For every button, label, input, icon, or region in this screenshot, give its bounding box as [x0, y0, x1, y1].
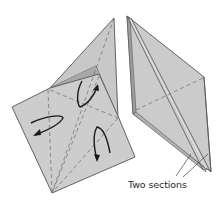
annotation-two-sections: Two sections	[128, 179, 187, 190]
left-figure	[12, 18, 135, 193]
origami-diagram	[0, 0, 217, 202]
right-figure	[127, 16, 211, 177]
